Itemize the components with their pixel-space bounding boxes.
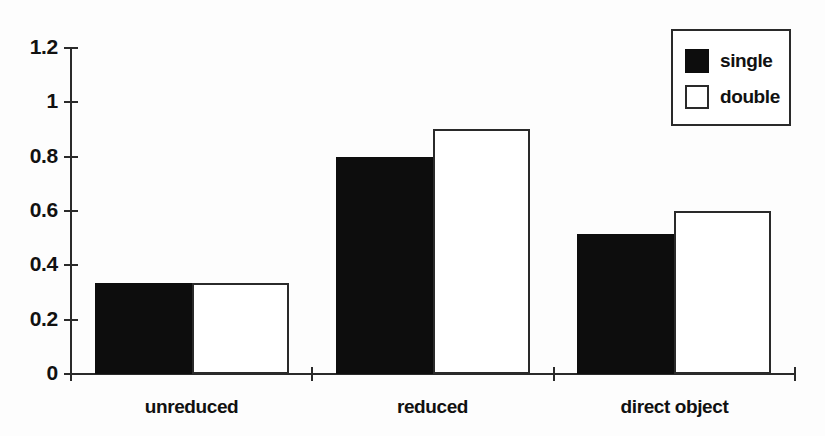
legend-label-double: double: [720, 86, 780, 108]
category-label-unreduced: unreduced: [71, 396, 312, 418]
bar-direct-object-double: [674, 211, 771, 374]
category-label-direct-object: direct object: [554, 396, 795, 418]
category-label-reduced: reduced: [312, 396, 553, 418]
chart-legend: single double: [671, 29, 791, 126]
y-tick-mark: [64, 264, 78, 266]
y-tick-label: 0.2: [0, 307, 58, 331]
y-tick-mark: [64, 47, 78, 49]
x-tick-mark: [70, 367, 72, 381]
y-tick-label: 1: [0, 89, 58, 113]
chart-page: 00.20.40.60.811.2 unreducedreduceddirect…: [0, 0, 825, 436]
legend-swatch-double-icon: [685, 85, 709, 109]
bar-direct-object-single: [577, 234, 674, 374]
y-tick-label: 0: [0, 361, 58, 385]
bar-reduced-single: [336, 157, 433, 374]
y-tick-mark: [64, 101, 78, 103]
y-tick-label: 1.2: [0, 35, 58, 59]
legend-item-single: single: [685, 43, 789, 79]
bar-unreduced-double: [192, 283, 289, 374]
legend-swatch-single-icon: [685, 49, 709, 73]
y-tick-label: 0.6: [0, 198, 58, 222]
y-tick-label: 0.8: [0, 144, 58, 168]
legend-label-single: single: [720, 50, 773, 72]
bar-reduced-double: [433, 129, 530, 374]
x-tick-mark: [553, 367, 555, 381]
y-tick-mark: [64, 319, 78, 321]
y-tick-label: 0.4: [0, 252, 58, 276]
x-tick-mark: [311, 367, 313, 381]
legend-item-double: double: [685, 79, 789, 115]
y-tick-mark: [64, 210, 78, 212]
y-tick-mark: [64, 156, 78, 158]
x-tick-mark: [794, 367, 796, 381]
bar-unreduced-single: [95, 283, 192, 374]
